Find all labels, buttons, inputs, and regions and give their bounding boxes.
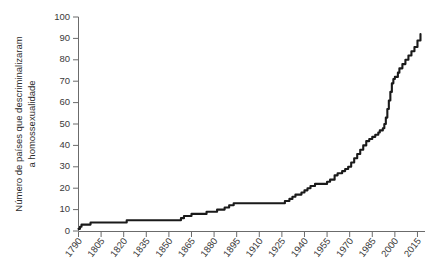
data-series-line xyxy=(79,34,421,229)
y-axis-title-line-2: a homossexualidade xyxy=(26,80,37,167)
chart-figure: 0102030405060708090100 17901805182018351… xyxy=(0,0,435,275)
y-tick-label: 50 xyxy=(59,118,70,129)
y-tick-label: 10 xyxy=(59,203,70,214)
x-tick-label: 1865 xyxy=(175,235,197,258)
y-axis-title-line-1: Número de países que descriminalizaram xyxy=(13,36,24,211)
x-axis-tick-labels: 1790180518201835185018651880189519101925… xyxy=(62,235,423,258)
decriminalization-line-chart: 0102030405060708090100 17901805182018351… xyxy=(0,0,435,275)
x-tick-label: 1970 xyxy=(334,235,356,258)
x-tick-label: 1820 xyxy=(108,235,130,258)
x-axis: 1790180518201835185018651880189519101925… xyxy=(62,232,425,259)
y-axis-tick-labels: 0102030405060708090100 xyxy=(54,11,70,236)
x-tick-label: 1910 xyxy=(243,235,265,258)
y-axis-ticks xyxy=(73,17,79,231)
x-tick-label: 2015 xyxy=(401,235,423,258)
x-axis-ticks xyxy=(79,232,418,238)
y-tick-label: 100 xyxy=(54,11,70,22)
y-tick-label: 40 xyxy=(59,139,70,150)
y-tick-label: 20 xyxy=(59,182,70,193)
y-tick-label: 70 xyxy=(59,75,70,86)
x-tick-label: 1940 xyxy=(288,235,310,258)
y-tick-label: 30 xyxy=(59,160,70,171)
y-axis-title: Número de países que descriminalizaram a… xyxy=(13,36,37,211)
x-tick-label: 1955 xyxy=(311,235,333,258)
x-tick-label: 1880 xyxy=(198,235,220,258)
x-tick-label: 1805 xyxy=(85,235,107,258)
y-tick-label: 80 xyxy=(59,53,70,64)
y-tick-label: 90 xyxy=(59,32,70,43)
x-tick-label: 2000 xyxy=(379,235,401,258)
x-tick-label: 1835 xyxy=(130,235,152,258)
x-tick-label: 1895 xyxy=(221,235,243,258)
y-axis: 0102030405060708090100 xyxy=(54,11,78,236)
x-tick-label: 1985 xyxy=(356,235,378,258)
y-tick-label: 0 xyxy=(65,225,70,236)
x-tick-label: 1850 xyxy=(153,235,175,258)
x-tick-label: 1790 xyxy=(62,235,84,258)
y-tick-label: 60 xyxy=(59,96,70,107)
x-tick-label: 1925 xyxy=(266,235,288,258)
